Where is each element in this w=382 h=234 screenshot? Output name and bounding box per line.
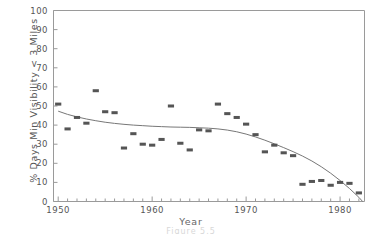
x-tick-label: 1950	[38, 205, 78, 215]
x-tick-label: 1970	[226, 205, 266, 215]
figure-caption: Figure 5.5	[0, 227, 382, 234]
x-tick-label: 1980	[320, 205, 360, 215]
x-axis-tick-labels: 1950196019701980	[0, 0, 382, 234]
chart-figure: % Days Min Visibility < 3 Miles 01020304…	[0, 0, 382, 234]
x-axis-title: Year	[0, 216, 382, 227]
x-tick-label: 1960	[132, 205, 172, 215]
